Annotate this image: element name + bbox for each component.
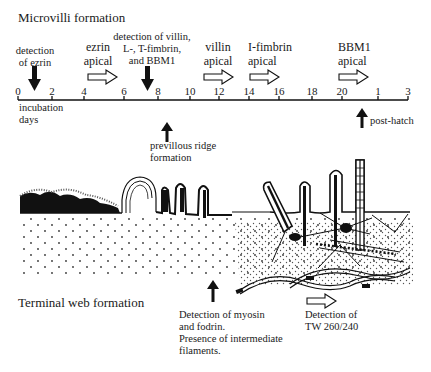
tick-label: 0: [15, 85, 21, 97]
tick-label: 3: [405, 85, 411, 97]
tick-label: 12: [214, 85, 225, 97]
ezrin-apical-arrow-icon: [88, 70, 117, 84]
event-ezrin-apical: ezrin apical: [80, 40, 116, 68]
event-bbm1-apical: BBM1 apical: [338, 40, 378, 68]
villin-apical-arrow-icon: [204, 70, 233, 84]
ridge-arrow-icon: [161, 122, 173, 142]
event-ezrin-detection: detection of ezrin: [4, 45, 66, 69]
event-myosin-fodrin: Detection of myosin and fodrin. Presence…: [179, 309, 283, 357]
event-previllous-ridge: previllous ridge formation: [150, 140, 216, 164]
tick-label: 4: [81, 85, 87, 97]
tick-label: 2: [49, 85, 55, 97]
event-tw260-240: Detection of TW 260/240: [305, 309, 358, 333]
event-villin-detection: detection of villin, L-, T-fimbrin, and …: [112, 31, 192, 67]
tick-label: 10: [185, 85, 196, 97]
tick-label: 8: [155, 85, 161, 97]
post-hatch-label: post-hatch: [370, 115, 414, 127]
villin-detection-arrow-icon: [141, 66, 154, 91]
tick-label: 6: [121, 85, 127, 97]
tick-label: 14: [244, 85, 255, 97]
tick-label: 1: [375, 85, 381, 97]
bbm1-apical-arrow-icon: [339, 70, 368, 84]
tick-label: 20: [337, 85, 348, 97]
myosin-arrow-icon: [207, 280, 219, 302]
cell-illustration: [18, 160, 413, 294]
ezrin-detection-arrow-icon: [28, 66, 41, 91]
tick-label: 18: [307, 85, 318, 97]
event-ifimbrin-apical: I-fimbrin apical: [248, 40, 292, 68]
ifimbrin-apical-arrow-icon: [250, 70, 279, 84]
tick-label: 16: [274, 85, 285, 97]
event-villin-apical: villin apical: [200, 40, 236, 68]
axis-label: incubation days: [19, 102, 63, 126]
post-hatch-arrow-icon: [356, 108, 368, 128]
microvilli-formation-title: Microvilli formation: [18, 10, 125, 26]
tw260-arrow-icon: [307, 294, 336, 308]
terminal-web-formation-title: Terminal web formation: [18, 295, 144, 311]
